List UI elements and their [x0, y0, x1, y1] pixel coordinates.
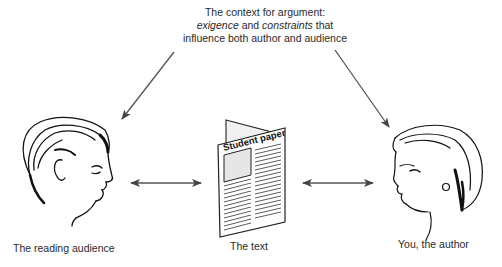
text-label: The text [230, 240, 268, 252]
author-label: You, the author [398, 238, 469, 250]
newspaper-icon: Student paper [218, 120, 287, 237]
arrow-context-to-author [335, 50, 389, 127]
arrow-context-to-audience [122, 52, 174, 119]
diagram-canvas: Student paper [0, 0, 502, 267]
audience-label: The reading audience [13, 242, 115, 254]
male-profile-head-icon [23, 117, 112, 226]
female-profile-head-icon [393, 125, 482, 240]
